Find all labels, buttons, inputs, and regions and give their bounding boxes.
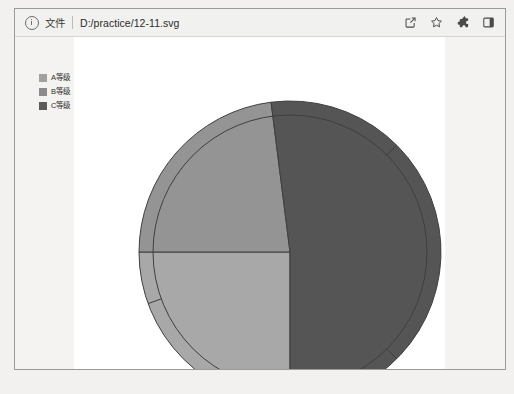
address-bar[interactable]: 文件 D:/practice/12-11.svg bbox=[15, 9, 403, 37]
legend-item-label: C等级 bbox=[51, 102, 70, 110]
legend-swatch bbox=[39, 74, 47, 82]
legend-item-label: A等级 bbox=[51, 74, 70, 82]
legend-swatch bbox=[39, 102, 47, 110]
page-viewport[interactable]: A等级 B等级 C等级 bbox=[15, 37, 505, 370]
address-bar-scheme-label: 文件 bbox=[45, 15, 65, 30]
legend-swatch bbox=[39, 88, 47, 96]
svg-document-canvas bbox=[74, 37, 445, 370]
screen: 文件 D:/practice/12-11.svg bbox=[0, 0, 514, 394]
chart-legend: A等级 B等级 C等级 bbox=[39, 72, 70, 111]
legend-item-label: B等级 bbox=[51, 88, 70, 96]
share-icon[interactable] bbox=[403, 15, 418, 30]
browser-toolbar: 文件 D:/practice/12-11.svg bbox=[15, 9, 505, 37]
legend-item: A等级 bbox=[39, 72, 70, 83]
extensions-puzzle-icon[interactable] bbox=[455, 15, 470, 30]
browser-window: 文件 D:/practice/12-11.svg bbox=[14, 8, 506, 370]
toolbar-actions bbox=[403, 15, 505, 30]
info-circle-icon[interactable] bbox=[25, 16, 39, 30]
side-panel-icon[interactable] bbox=[481, 15, 496, 30]
bookmark-star-icon[interactable] bbox=[429, 15, 444, 30]
address-bar-url[interactable]: D:/practice/12-11.svg bbox=[80, 17, 179, 29]
address-bar-divider bbox=[72, 16, 73, 29]
legend-item: B等级 bbox=[39, 86, 70, 97]
legend-item: C等级 bbox=[39, 100, 70, 111]
